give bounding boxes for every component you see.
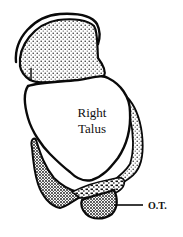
bone-label-right: Right: [78, 105, 107, 120]
talus-diagram: Right Talus O.T.: [0, 0, 183, 237]
callout-label-ot: O.T.: [148, 200, 167, 211]
talus-head-stippled: [20, 19, 105, 82]
bone-label-talus: Talus: [78, 121, 106, 136]
